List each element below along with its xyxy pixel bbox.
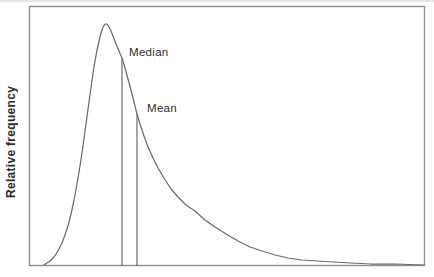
y-axis-label: Relative frequency [2,72,20,212]
skewed-distribution-figure: Relative frequency Median Mean [0,0,434,277]
plot-frame [30,7,425,266]
median-annotation: Median [129,46,169,58]
distribution-chart-canvas [0,0,434,277]
distribution-curve [44,24,424,265]
mean-annotation: Mean [147,102,177,114]
